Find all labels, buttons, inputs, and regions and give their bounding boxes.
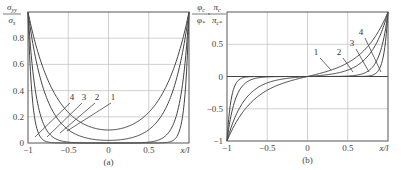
panel-b-chart: −1−0.500.5−1−0.500.5x/l(b)1234φcφ*πcπc* <box>192 2 389 165</box>
y-axis-label-a: σyyσs <box>3 2 21 26</box>
ylabel-numerator-sub: yy <box>11 7 18 13</box>
leader-line <box>320 58 331 70</box>
curve-label-4: 4 <box>70 92 75 102</box>
y-tick-label: 0.4 <box>13 86 25 96</box>
ylabel-denominator: πc* <box>212 15 222 26</box>
curve-label-4: 4 <box>359 27 364 37</box>
ylabel-denominator: σs <box>9 15 16 26</box>
ylabel-numerator-sub: c <box>202 7 205 13</box>
ylabel-numerator: πc <box>213 2 221 13</box>
curve-label-1: 1 <box>111 92 116 102</box>
y-tick-label: 0 <box>219 72 224 82</box>
x-axis-label: x/l <box>379 143 389 153</box>
panel-a-chart: −1−0.500.500.20.40.60.8x/l(a)4321σyyσs <box>3 2 190 167</box>
ylabel-numerator: φc <box>197 2 205 13</box>
y-tick-label: 0.2 <box>13 112 24 122</box>
ylabel-denominator-sub: * <box>202 20 205 26</box>
ylabel-denominator-sub: s <box>13 20 16 26</box>
ylabel-numerator: σyy <box>7 2 17 13</box>
ylabel-denominator-sub: c* <box>216 20 222 26</box>
y-tick-label: −1 <box>213 136 223 146</box>
x-tick-label: −0.5 <box>259 143 276 153</box>
x-tick-label: −1 <box>222 143 232 153</box>
x-tick-label: 0 <box>106 145 111 155</box>
curve-label-2: 2 <box>95 92 100 102</box>
y-tick-label: 0 <box>20 138 25 148</box>
y-tick-label: −0.5 <box>207 104 224 114</box>
curve-label-3: 3 <box>350 38 355 48</box>
panel-label: (a) <box>104 157 114 167</box>
y-tick-label: 0.6 <box>13 59 25 69</box>
x-tick-label: −0.5 <box>60 145 77 155</box>
figure-canvas: −1−0.500.500.20.40.60.8x/l(a)4321σyyσs −… <box>0 0 401 170</box>
x-tick-label: 0.5 <box>342 143 354 153</box>
x-axis-label: x/l <box>180 145 190 155</box>
y-axis-label-b: πcπc* <box>208 2 226 26</box>
ylabel-numerator-sub: c <box>218 7 221 13</box>
curve-label-2: 2 <box>337 47 342 57</box>
x-tick-label: −1 <box>23 145 33 155</box>
y-tick-label: 0.8 <box>13 33 25 43</box>
x-tick-label: 0 <box>305 143 310 153</box>
x-tick-label: 0.5 <box>143 145 155 155</box>
curve-label-1: 1 <box>314 47 319 57</box>
ylabel-denominator: φ* <box>197 15 205 26</box>
y-tick-label: 0.5 <box>212 39 224 49</box>
curve-label-3: 3 <box>82 92 87 102</box>
panel-label: (b) <box>302 155 313 165</box>
y-axis-label-b-left: φcφ* <box>192 2 210 26</box>
